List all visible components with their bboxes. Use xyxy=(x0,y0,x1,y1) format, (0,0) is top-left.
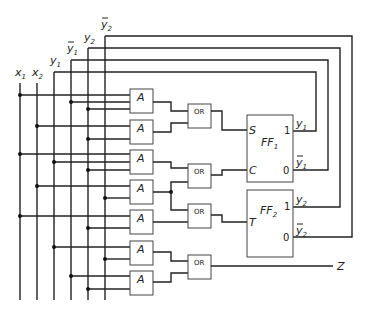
and-gate-1: A xyxy=(130,89,153,113)
out-y2-bar: y2 xyxy=(295,224,308,239)
svg-text:A: A xyxy=(136,152,145,165)
and-input-wires xyxy=(18,93,130,291)
and-gates: A A A A A A A xyxy=(130,89,153,295)
wire-to-S xyxy=(211,111,247,130)
and-gate-3: A xyxy=(130,150,153,174)
pin-s: S xyxy=(249,124,256,137)
label-y2: y2 xyxy=(83,31,96,46)
pin-1: 1 xyxy=(284,201,290,212)
label-x2: x2 xyxy=(31,66,44,81)
out-y1: y1 xyxy=(295,117,307,132)
and-to-or-wires xyxy=(153,102,188,282)
svg-text:A: A xyxy=(136,212,145,225)
wire-to-C xyxy=(211,170,247,175)
out-y2: y2 xyxy=(295,193,308,208)
pin-1: 1 xyxy=(284,125,290,136)
and-gate-2: A xyxy=(130,120,153,144)
svg-text:OR: OR xyxy=(194,168,205,176)
and-gate-5: A xyxy=(130,210,153,234)
label-y2-bar: y2 xyxy=(100,18,113,33)
or-gate-4: OR xyxy=(188,255,211,279)
label-y1-bar: y1 xyxy=(66,42,78,57)
wire-to-T xyxy=(211,215,247,222)
circuit-canvas: x1 x2 y1 y1 y2 y2 xyxy=(0,0,366,311)
svg-text:OR: OR xyxy=(194,259,205,267)
svg-text:OR: OR xyxy=(194,108,205,116)
svg-text:A: A xyxy=(136,91,145,104)
or-gate-2: OR xyxy=(188,164,211,188)
label-y1: y1 xyxy=(49,54,61,69)
and-gate-4: A xyxy=(130,180,153,204)
or-gates: OR OR OR OR xyxy=(188,104,211,279)
pin-c: C xyxy=(249,164,257,177)
and-gate-7: A xyxy=(130,271,153,295)
flip-flop-2: FF2 T 1 0 y2 y2 xyxy=(247,190,308,257)
svg-text:A: A xyxy=(136,182,145,195)
label-x1: x1 xyxy=(14,66,26,81)
svg-text:A: A xyxy=(136,273,145,286)
and-gate-6: A xyxy=(130,241,153,265)
svg-text:A: A xyxy=(136,122,145,135)
pin-0: 0 xyxy=(283,232,289,243)
logic-circuit-diagram: x1 x2 y1 y1 y2 y2 xyxy=(0,0,366,311)
output-z-label: Z xyxy=(336,260,345,273)
svg-text:A: A xyxy=(136,243,145,256)
or-gate-1: OR xyxy=(188,104,211,128)
or-gate-3: OR xyxy=(188,204,211,228)
svg-text:OR: OR xyxy=(194,208,205,216)
out-y1-bar: y1 xyxy=(295,156,307,171)
pin-0: 0 xyxy=(283,165,289,176)
flip-flop-1: S FF1 C 1 0 y1 y1 xyxy=(247,115,307,182)
